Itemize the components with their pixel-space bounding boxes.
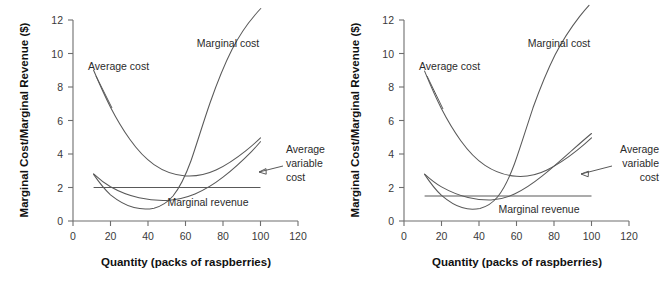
chart-svg-left: 0 2 4 6 8 10 12 0 20 40 60 80 100	[0, 0, 331, 288]
label-average-variable-cost-line3: cost	[640, 171, 659, 183]
label-average-variable-cost-line1: Average	[620, 143, 659, 155]
label-marginal-revenue-left: Marginal revenue	[167, 196, 248, 208]
x-axis-title-right: Quantity (packs of raspberries)	[432, 256, 602, 268]
x-tick-label-60: 60	[511, 230, 523, 242]
x-tick-label-0: 0	[401, 230, 407, 242]
y-tick-label-0: 0	[388, 215, 394, 227]
label-average-variable-cost-line2: variable	[286, 157, 323, 169]
label-marginal-cost-right: Marginal cost	[528, 37, 591, 49]
curve-average-cost-right	[425, 71, 592, 176]
y-tick-label-4: 4	[57, 148, 63, 160]
y-axis-title-right: Marginal Cost/Marginal Revenue ($)	[349, 22, 361, 217]
y-ticks-left	[68, 20, 73, 221]
x-tick-label-20: 20	[436, 230, 448, 242]
y-tick-label-6: 6	[388, 115, 394, 127]
leader-average-cost-left	[96, 76, 112, 108]
x-ticks-right	[404, 221, 629, 226]
label-average-variable-cost-line1: Average	[286, 143, 325, 155]
curve-marginal-cost-right	[425, 5, 589, 209]
label-marginal-cost-left: Marginal cost	[197, 37, 260, 49]
y-tick-label-2: 2	[388, 182, 394, 194]
y-tick-label-8: 8	[388, 81, 394, 93]
label-average-cost-right: Average cost	[419, 60, 480, 72]
chart-svg-right: 0 2 4 6 8 10 12 0 20 40 60 80 100 120	[331, 0, 662, 288]
x-tick-label-120: 120	[620, 230, 638, 242]
curve-average-variable-cost-left	[94, 142, 261, 201]
label-average-variable-cost-line3: cost	[286, 171, 305, 183]
y-axis-title-left: Marginal Cost/Marginal Revenue ($)	[18, 22, 30, 217]
x-ticks-left	[73, 221, 298, 226]
y-tick-label-0: 0	[57, 215, 63, 227]
label-average-cost-left: Average cost	[88, 60, 149, 72]
y-tick-label-12: 12	[51, 14, 63, 26]
y-tick-label-4: 4	[388, 148, 394, 160]
y-tick-label-10: 10	[51, 48, 63, 60]
x-tick-label-80: 80	[548, 230, 560, 242]
arrow-average-variable-cost-right	[581, 166, 612, 177]
leader-average-cost-right	[427, 76, 443, 109]
x-axis-title-left: Quantity (packs of raspberries)	[101, 256, 271, 268]
x-tick-label-20: 20	[105, 230, 117, 242]
chart-panel-right: 0 2 4 6 8 10 12 0 20 40 60 80 100 120	[331, 0, 662, 288]
x-tick-label-100: 100	[583, 230, 601, 242]
curve-average-variable-cost-right	[425, 134, 592, 201]
arrow-average-variable-cost-left	[259, 166, 283, 174]
y-tick-label-12: 12	[382, 14, 394, 26]
x-tick-label-60: 60	[180, 230, 192, 242]
curve-average-cost-left	[94, 70, 261, 176]
y-tick-label-6: 6	[57, 115, 63, 127]
chart-panel-left: 0 2 4 6 8 10 12 0 20 40 60 80 100	[0, 0, 331, 288]
label-average-variable-cost-line2: variable	[622, 157, 659, 169]
cost-curves-figure: 0 2 4 6 8 10 12 0 20 40 60 80 100	[0, 0, 662, 288]
y-tick-label-10: 10	[382, 48, 394, 60]
y-tick-label-2: 2	[57, 182, 63, 194]
y-tick-label-8: 8	[57, 81, 63, 93]
x-tick-label-80: 80	[217, 230, 229, 242]
x-tick-label-40: 40	[473, 230, 485, 242]
label-marginal-revenue-right: Marginal revenue	[498, 203, 579, 215]
x-tick-label-100: 100	[252, 230, 270, 242]
x-tick-label-0: 0	[70, 230, 76, 242]
y-ticks-right	[399, 20, 404, 221]
x-tick-label-40: 40	[142, 230, 154, 242]
x-tick-label-120: 120	[289, 230, 307, 242]
